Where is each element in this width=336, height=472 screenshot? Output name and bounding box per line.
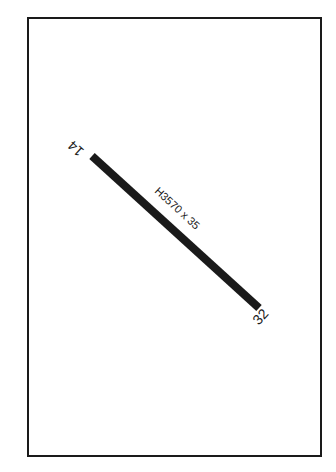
runway-end-32-label: 32 — [249, 305, 271, 327]
runway-dimension-label: H3570 x 35 — [153, 185, 203, 232]
runway-end-14-label: 14 — [64, 137, 86, 159]
runway-diagram: H3570 x 35 14 32 — [0, 0, 336, 472]
runway-14-32 — [92, 156, 259, 308]
